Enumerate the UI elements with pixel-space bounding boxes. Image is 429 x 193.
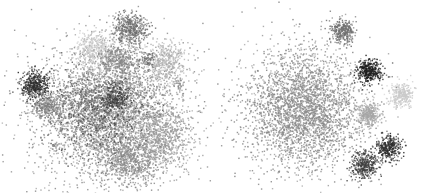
right-scatter-plot [215, 0, 429, 193]
left-scatter-canvas [0, 0, 215, 193]
left-scatter-plot [0, 0, 215, 193]
figure [0, 0, 429, 193]
right-scatter-canvas [215, 0, 429, 193]
